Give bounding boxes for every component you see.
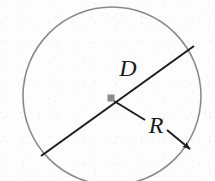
circle-outline — [23, 7, 201, 181]
diameter-label: D — [119, 56, 136, 80]
diameter-line — [41, 46, 194, 156]
circle-diagram-figure: D R — [0, 0, 215, 181]
radius-arrow-stem-outer — [167, 130, 190, 149]
center-dot — [108, 95, 115, 102]
radius-arrow-stem-inner — [114, 101, 145, 120]
geometry-canvas — [0, 0, 215, 181]
radius-label: R — [149, 113, 164, 137]
